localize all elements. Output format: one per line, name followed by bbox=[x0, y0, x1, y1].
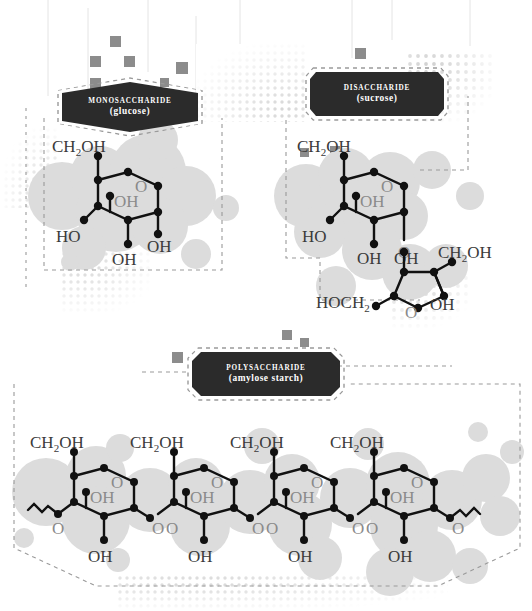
badge-body: POLYSACCHARIDE (amylose starch) bbox=[192, 352, 340, 396]
sucrose-inner-oh-label: OH bbox=[360, 192, 385, 211]
sucrose-ho-label: HO bbox=[302, 227, 327, 246]
figure-canvas: .bond{stroke:#111;stroke-width:2.4;fill:… bbox=[0, 0, 532, 611]
badge-body: DISACCHARIDE (sucrose) bbox=[310, 72, 444, 116]
glucose-unit: CH2OH O OH OH O bbox=[30, 433, 154, 566]
svg-text:OH: OH bbox=[290, 488, 315, 507]
svg-text:CH2OH: CH2OH bbox=[130, 433, 184, 454]
badge-polysaccharide[interactable]: POLYSACCHARIDE (amylose starch) bbox=[192, 352, 340, 396]
chain-terminator-left bbox=[28, 504, 58, 514]
svg-text:OH: OH bbox=[390, 488, 415, 507]
badge-disaccharide[interactable]: DISACCHARIDE (sucrose) bbox=[310, 72, 444, 116]
glucose-right-oh-label: OH bbox=[147, 237, 172, 256]
glucose-structure: CH2OH O OH HO OH OH bbox=[52, 137, 172, 269]
badge-line2: (amylose starch) bbox=[229, 373, 304, 384]
badge-line1: MONOSACCHARIDE bbox=[88, 97, 171, 105]
svg-text:OH: OH bbox=[190, 488, 215, 507]
badge-monosaccharide[interactable]: MONOSACCHARIDE (glucose) bbox=[62, 82, 198, 132]
badge-line2: (glucose) bbox=[110, 106, 150, 117]
glucose-ch2oh-label: CH2OH bbox=[52, 137, 106, 158]
sucrose-furanose-oh-label: OH bbox=[430, 295, 455, 314]
badge-line2: (sucrose) bbox=[357, 93, 398, 104]
sucrose-structure: CH2OH O OH HO OH O OH OH H bbox=[297, 137, 492, 322]
svg-text:O: O bbox=[352, 519, 364, 538]
link-o-label: O bbox=[366, 519, 378, 538]
svg-text:CH2OH: CH2OH bbox=[330, 433, 384, 454]
amylose-structure: CH2OH O OH OH O CH2OH O bbox=[28, 433, 480, 566]
glucose-unit: CH2OH O OH OH O bbox=[330, 433, 454, 566]
glucose-unit: CH2OH O OH OH O bbox=[130, 433, 254, 566]
glucose-inner-oh-label: OH bbox=[114, 192, 139, 211]
svg-text:OH: OH bbox=[388, 547, 413, 566]
sucrose-oh-left-label: OH bbox=[357, 249, 382, 268]
badge-line1: POLYSACCHARIDE bbox=[226, 364, 306, 372]
sucrose-hoch2-label: HOCH2 bbox=[316, 293, 370, 314]
link-o-label: O bbox=[452, 519, 464, 538]
svg-text:OH: OH bbox=[88, 547, 113, 566]
svg-text:OH: OH bbox=[288, 547, 313, 566]
svg-text:CH2OH: CH2OH bbox=[230, 433, 284, 454]
svg-text:CH2OH: CH2OH bbox=[30, 433, 84, 454]
badge-line1: DISACCHARIDE bbox=[344, 84, 411, 92]
sucrose-ch2oh2-label: CH2OH bbox=[438, 243, 492, 264]
svg-text:OH: OH bbox=[90, 488, 115, 507]
svg-text:O: O bbox=[252, 519, 264, 538]
sucrose-furanose-o-label: O bbox=[405, 303, 417, 322]
glucose-unit: CH2OH O OH OH O bbox=[230, 433, 354, 566]
chain-terminator-right bbox=[450, 508, 480, 518]
link-o-label: O bbox=[166, 519, 178, 538]
svg-text:O: O bbox=[52, 519, 64, 538]
svg-text:OH: OH bbox=[188, 547, 213, 566]
link-o-label: O bbox=[266, 519, 278, 538]
svg-text:O: O bbox=[152, 519, 164, 538]
sucrose-ch2oh-label: CH2OH bbox=[297, 137, 351, 158]
glucose-ho-label: HO bbox=[56, 227, 81, 246]
glucose-bottom-oh-label: OH bbox=[112, 250, 137, 269]
